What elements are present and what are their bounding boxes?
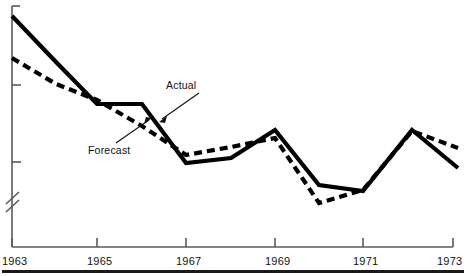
x-axis-ticks <box>12 238 453 247</box>
chart-figure: Actual Forecast 1963 1965 1967 1969 1971… <box>0 0 468 276</box>
x-tick-label-1973: 1973 <box>437 255 462 267</box>
line-chart-plot <box>0 0 468 276</box>
series-line-forecast <box>12 58 458 203</box>
annotation-leader-actual <box>159 93 199 123</box>
x-tick-label-1971: 1971 <box>353 255 378 267</box>
x-tick-label-1965: 1965 <box>87 255 112 267</box>
series-annotation-actual: Actual <box>166 79 196 91</box>
x-tick-label-1963: 1963 <box>2 255 27 267</box>
series-annotation-forecast: Forecast <box>88 144 130 156</box>
x-tick-label-1967: 1967 <box>176 255 201 267</box>
bottom-rule-divider <box>2 270 464 273</box>
series-line-actual <box>12 16 458 191</box>
x-tick-label-1969: 1969 <box>265 255 290 267</box>
